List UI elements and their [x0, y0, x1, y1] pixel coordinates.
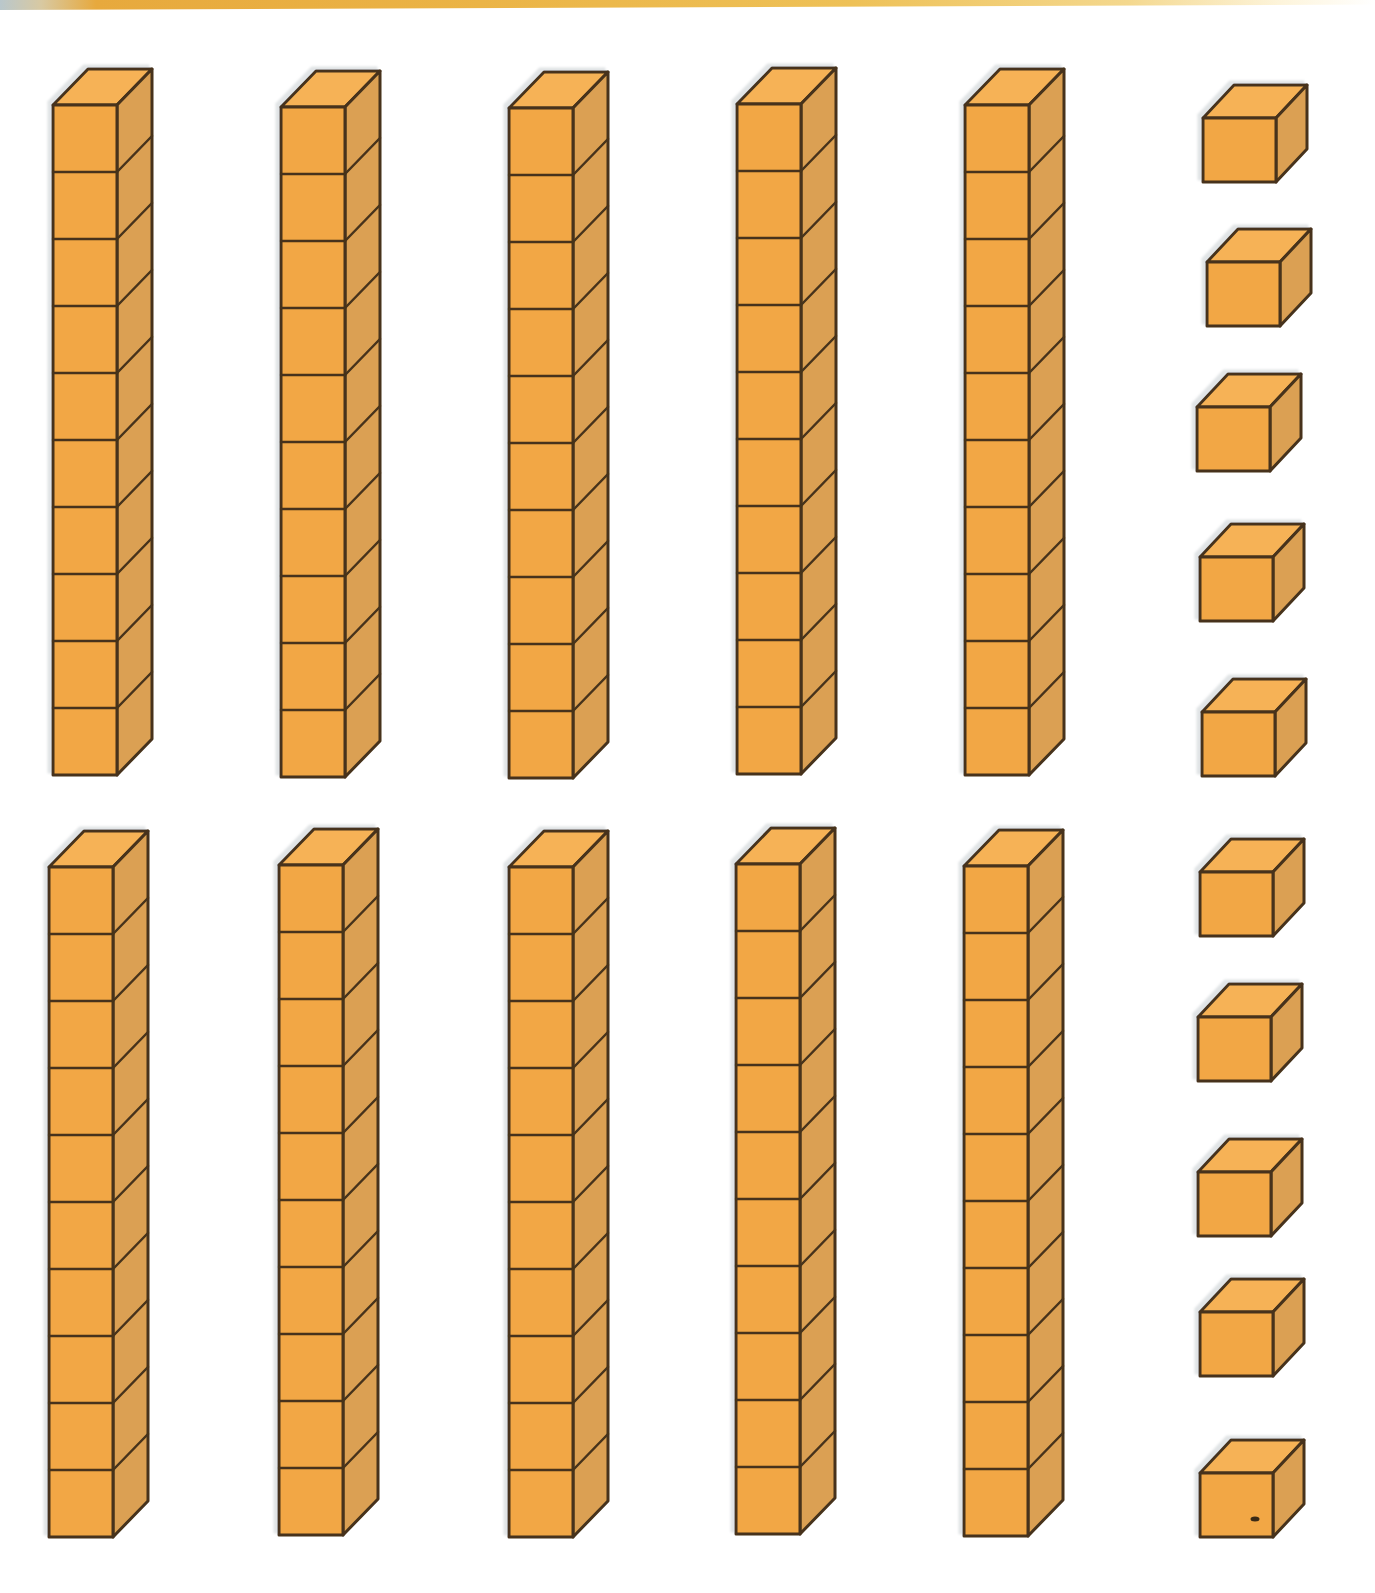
ones-cube [1198, 984, 1302, 1081]
tens-rod [49, 831, 148, 1537]
ones-cube [1200, 1279, 1304, 1376]
ones-cube [1202, 679, 1306, 776]
ones-cube [1200, 524, 1304, 621]
tens-rod [737, 68, 836, 774]
tens-rod [965, 69, 1064, 775]
tens-rod [736, 828, 835, 1534]
print-speck [1251, 1517, 1260, 1522]
ones-cube [1200, 839, 1304, 936]
tens-rod [281, 71, 380, 777]
tens-rod [964, 830, 1063, 1536]
tens-rod [509, 72, 608, 778]
tens-rod [53, 69, 152, 775]
worksheet-page [0, 0, 1375, 1593]
base-ten-blocks-canvas [0, 0, 1375, 1593]
ones-cube [1198, 1139, 1302, 1236]
ones-cube [1203, 85, 1307, 182]
ones-cube [1200, 1440, 1304, 1537]
tens-rod [509, 831, 608, 1537]
ones-cube [1207, 229, 1311, 326]
tens-rod [279, 829, 378, 1535]
ones-cube [1197, 374, 1301, 471]
